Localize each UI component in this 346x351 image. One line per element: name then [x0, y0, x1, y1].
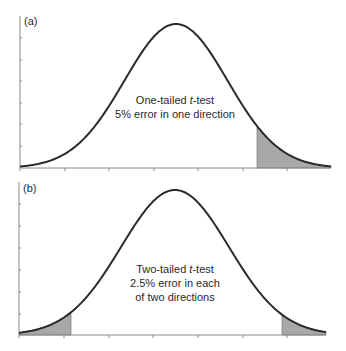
shaded-rejection-region [257, 126, 331, 168]
axes [19, 182, 326, 338]
normal-curve [19, 190, 326, 333]
panel-label: (b) [23, 182, 36, 194]
annotation-line-2: 2.5% error in each [130, 277, 220, 289]
panel-label: (a) [24, 15, 37, 27]
annotation-line-3: of two directions [135, 291, 215, 303]
panel-a-one-tailed: (a) One-tailed t-test 5% error in one di… [20, 15, 331, 171]
annotation-line-2: 5% error in one direction [115, 108, 235, 120]
annotation-line-1: One-tailed t-test [136, 94, 214, 106]
t-test-distribution-figure: (a) One-tailed t-test 5% error in one di… [0, 0, 346, 351]
annotation-line-1: Two-tailed t-test [136, 263, 214, 275]
panel-b-two-tailed: (b) Two-tailed t-test 2.5% error in each… [19, 182, 326, 338]
shaded-tail [257, 126, 331, 168]
